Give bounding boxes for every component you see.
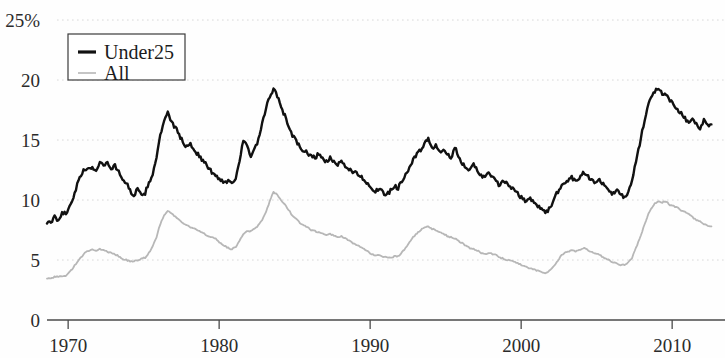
series-line-under25 bbox=[47, 89, 711, 224]
y-tick-label-0: 0 bbox=[31, 310, 41, 331]
x-axis-tick-labels: 19701980199020002010 bbox=[49, 335, 691, 356]
legend-label-under25: Under25 bbox=[104, 41, 174, 63]
chart-page: 25%20151050 19701980199020002010 Under25… bbox=[0, 0, 725, 358]
x-tick-label-1970: 1970 bbox=[49, 335, 87, 356]
line-chart: 25%20151050 19701980199020002010 Under25… bbox=[0, 0, 725, 358]
legend: Under25All bbox=[68, 34, 185, 84]
x-tick-label-2010: 2010 bbox=[653, 335, 691, 356]
x-tick-label-1990: 1990 bbox=[351, 335, 389, 356]
x-axis-ticks bbox=[68, 320, 672, 329]
y-tick-label-5: 5 bbox=[31, 250, 41, 271]
legend-label-all: All bbox=[104, 62, 130, 84]
x-tick-label-2000: 2000 bbox=[502, 335, 540, 356]
series-line-all bbox=[47, 192, 711, 279]
y-tick-label-15: 15 bbox=[21, 130, 40, 151]
data-series bbox=[47, 89, 711, 279]
x-tick-label-1980: 1980 bbox=[200, 335, 238, 356]
y-tick-label-10: 10 bbox=[21, 190, 40, 211]
y-tick-label-25: 25% bbox=[5, 10, 40, 31]
y-tick-label-20: 20 bbox=[21, 70, 40, 91]
y-axis-tick-labels: 25%20151050 bbox=[5, 10, 40, 331]
